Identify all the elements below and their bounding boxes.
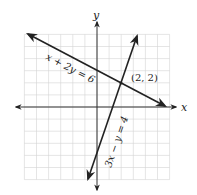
intersection-point [120,82,123,85]
intersection-label: (2, 2) [131,72,158,83]
chart-container: x y x + 2y = 6 3x − y = 4 (2, 2) [0,0,197,195]
x-axis-label: x [181,101,188,114]
coordinate-plane: x y x + 2y = 6 3x − y = 4 (2, 2) [0,0,197,195]
y-axis-label: y [92,9,100,22]
